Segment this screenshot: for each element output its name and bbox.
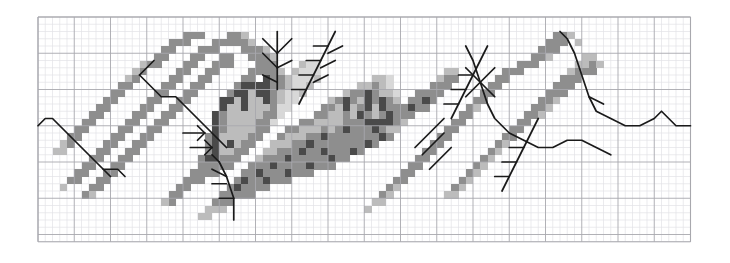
backstitch-path (328, 46, 343, 53)
backstitch-path (198, 126, 205, 133)
backstitch-path (299, 32, 335, 105)
backstitch-path (219, 162, 234, 220)
backstitch-path (466, 46, 611, 155)
backstitch-path (212, 155, 219, 162)
backstitch-path (198, 133, 205, 140)
backstitch-path (263, 39, 278, 54)
backstitch-path (451, 46, 487, 119)
pattern-canvas: Dark Medium Light Pale Backstitch Floral… (0, 0, 730, 263)
backstitch-path (140, 75, 227, 148)
backstitch-path (560, 32, 691, 126)
backstitch-path (321, 61, 336, 68)
backstitch-path (205, 140, 212, 147)
backstitch-path (140, 61, 155, 76)
backstitch-path (38, 119, 111, 177)
backstitch-layer (38, 17, 691, 242)
backstitch-path (205, 148, 212, 155)
backstitch-path (277, 39, 292, 54)
backstitch-path (415, 119, 444, 148)
chart-grid-area (38, 17, 691, 242)
backstitch-path (430, 148, 452, 170)
backstitch-path (263, 53, 278, 68)
backstitch-path (502, 119, 538, 192)
backstitch-path (277, 61, 292, 68)
backstitch-path (314, 75, 329, 82)
backstitch-path (263, 75, 278, 82)
